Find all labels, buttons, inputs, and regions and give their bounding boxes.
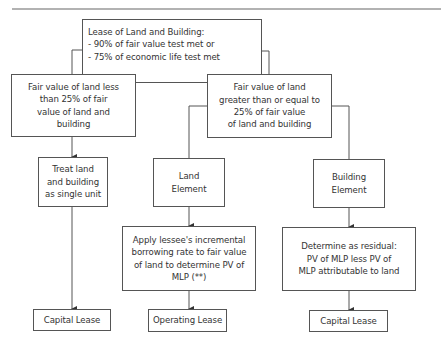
node-building-residual-method: Determine as residual: PV of MLP less PV…	[282, 227, 416, 291]
branch-greater-line-1: Fair value of land	[233, 81, 305, 93]
node-land-less-than-25: Fair value of land less than 25% of fair…	[11, 74, 136, 137]
node-building-element: Building Element	[313, 159, 385, 208]
node-land-element: Land Element	[153, 158, 225, 207]
lease-classification-flowchart: Lease of Land and Building: - 90% of fai…	[0, 0, 443, 347]
outcome-capital-lease-single-unit: Capital Lease	[33, 309, 111, 331]
branch-less-line-1: Fair value of land less	[28, 81, 119, 93]
single-unit-line-2: and building	[47, 176, 99, 188]
outcome-operating-lease-land: Operating Lease	[148, 309, 227, 332]
building-element-line-2: Element	[332, 184, 367, 196]
branch-less-line-3: value of land and	[37, 106, 110, 118]
land-method-line-2: borrowing rate to fair value	[132, 246, 247, 258]
building-method-line-3: MLP attributable to land	[299, 265, 400, 277]
branch-greater-line-2: greater than or equal to	[219, 94, 320, 106]
branch-greater-line-4: of land and building	[228, 118, 312, 130]
single-unit-line-1: Treat land	[52, 163, 94, 175]
root-line-3: - 75% of economic life test met	[88, 51, 220, 63]
branch-greater-line-3: 25% of fair value	[234, 106, 306, 118]
single-unit-line-3: as single unit	[45, 188, 101, 200]
land-method-line-4: MLP (**)	[172, 271, 207, 283]
node-single-unit: Treat land and building as single unit	[38, 157, 108, 207]
land-element-line-2: Element	[172, 183, 207, 195]
building-method-line-1: Determine as residual:	[301, 240, 396, 252]
building-method-line-2: PV of MLP less PV of	[307, 253, 391, 265]
root-line-1: Lease of Land and Building:	[88, 26, 204, 38]
branch-less-line-4: building	[57, 118, 91, 130]
land-method-line-3: of land to determine PV of	[134, 259, 244, 271]
node-land-gte-25: Fair value of land greater than or equal…	[207, 74, 332, 138]
outcome-label: Operating Lease	[153, 314, 222, 326]
building-element-line-1: Building	[332, 171, 366, 183]
root-line-2: - 90% of fair value test met or	[88, 38, 215, 50]
node-land-pv-method: Apply lessee's incremental borrowing rat…	[122, 226, 256, 291]
outcome-label: Capital Lease	[320, 315, 377, 327]
land-element-line-1: Land	[179, 170, 200, 182]
outcome-capital-lease-building: Capital Lease	[309, 310, 388, 332]
outcome-label: Capital Lease	[44, 314, 101, 326]
land-method-line-1: Apply lessee's incremental	[133, 234, 246, 246]
branch-less-line-2: than 25% of fair	[40, 93, 108, 105]
